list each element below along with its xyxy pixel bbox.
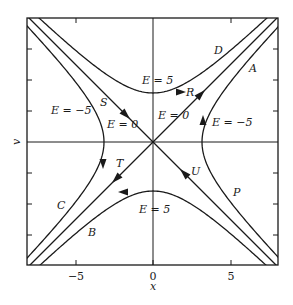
label-e0-left: E = 0 [106,118,138,131]
label-em5-right: E = −5 [211,116,252,129]
arrow-left-icon [118,189,128,196]
label-d: D [213,44,223,57]
label-a: A [248,62,257,75]
label-c: C [57,199,66,212]
label-b: B [87,226,96,239]
label-p: P [232,186,241,199]
x-axis-title: x [150,280,157,293]
label-e5-bottom: E = 5 [138,203,170,216]
arrow-down-icon [100,159,107,169]
label-t: T [116,157,125,170]
label-em5-left: E = −5 [50,104,91,117]
arrow-right-icon [176,89,186,96]
x-tick-label-neg5: −5 [68,270,84,283]
label-u: U [191,165,201,178]
label-e0-right: E = 0 [157,109,189,122]
label-r: R [185,86,194,99]
label-s: S [100,96,108,109]
label-e5-top: E = 5 [141,74,173,87]
v-axis-title: v [10,138,23,145]
arrow-up-icon [200,115,207,125]
phase-portrait-chart: −5 0 5 x v E = 5 E = 5 E = −5 E = −5 E =… [0,0,293,305]
x-tick-label-5: 5 [228,270,235,283]
